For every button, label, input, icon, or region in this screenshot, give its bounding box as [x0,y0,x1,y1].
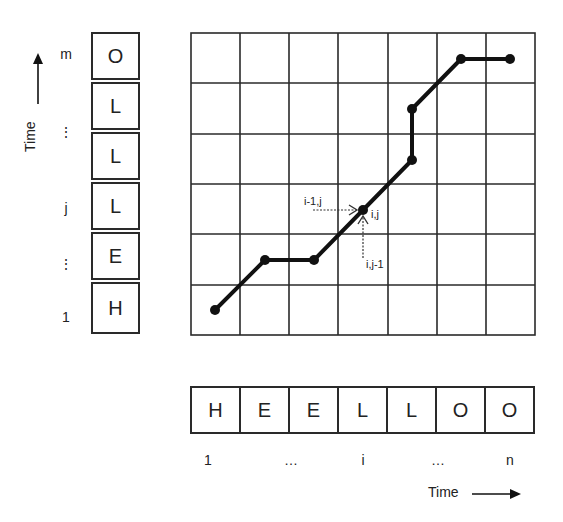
horizontal-sequence-cell: L [337,386,388,434]
horizontal-sequence-cell: E [239,386,290,434]
vertical-sequence-cell: H [91,282,140,334]
diagram-canvas [0,0,563,522]
vertical-sequence-cell: E [91,232,140,280]
path-point [260,255,270,265]
vertical-sequence-cell: L [91,182,140,230]
vertical-tick-1: 1 [56,309,76,325]
horizontal-time-arrow-icon [472,489,521,499]
path-point [407,155,417,165]
horizontal-sequence-cell: E [288,386,339,434]
vertical-time-arrow-icon [33,53,43,104]
vertical-tick-ellipsis: ⋮ [56,256,76,272]
horizontal-sequence-cell: L [386,386,437,434]
horizontal-tick-ellipsis: … [271,452,311,468]
horizontal-sequence-cell: H [190,386,241,434]
vertical-tick-ellipsis: ⋮ [56,124,76,140]
lower-predecessor-label: i,j-1 [366,258,384,270]
vertical-sequence-cell: L [91,132,140,180]
horizontal-time-axis-label: Time [428,484,459,500]
horizontal-sequence-cell: O [484,386,535,434]
left-predecessor-label: i-1,j [304,195,322,207]
path-point [407,104,417,114]
path-point [210,305,220,315]
path-point [309,255,319,265]
vertical-tick-m: m [56,46,76,62]
path-point [456,54,466,64]
vertical-sequence-cell: L [91,82,140,130]
horizontal-tick-n: n [490,452,530,468]
path-point [505,54,515,64]
vertical-sequence-cell: O [91,32,140,80]
horizontal-sequence-cell: O [435,386,486,434]
current-cell-label: i,j [371,208,379,220]
horizontal-tick-i: i [343,452,383,468]
alignment-grid [191,33,535,335]
horizontal-tick-1: 1 [188,452,228,468]
path-point-current [358,205,368,215]
horizontal-tick-ellipsis: … [418,452,458,468]
vertical-tick-j: j [56,200,76,216]
